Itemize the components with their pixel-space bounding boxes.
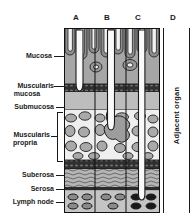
adjacent-organ-region: Adjacent organ (162, 40, 192, 190)
column-label-c: C (135, 13, 141, 22)
label-subserosa: Suberosa (2, 171, 54, 179)
leader-muscularis-propria (51, 136, 58, 137)
leader-mucosa (54, 56, 65, 57)
leader-lymph-node (56, 202, 65, 203)
label-serosa: Serosa (2, 185, 54, 193)
label-muscularis-mucosa-line2: mucosa (0, 90, 54, 98)
bracket-muscularis-propria (57, 112, 63, 162)
column-label-a: A (73, 13, 79, 22)
column-label-d: D (170, 13, 176, 22)
label-lymph-node: Lymph node (0, 198, 54, 206)
label-submucosa: Submucosa (2, 103, 54, 111)
bowel-wall-cross-section (64, 28, 160, 213)
leader-muscularis-mucosa (54, 86, 65, 87)
label-muscularis-propria-line2: propria (0, 139, 50, 147)
label-muscularis-propria-line1: Muscularis (0, 131, 50, 139)
leader-submucosa (56, 107, 65, 108)
leader-serosa (56, 189, 65, 190)
leader-subserosa (56, 175, 65, 176)
label-mucosa: Mucosa (2, 52, 52, 60)
figure-canvas: A B C D (0, 0, 195, 221)
adjacent-organ-label: Adjacent organ (173, 86, 182, 143)
column-label-b: B (104, 13, 110, 22)
label-muscularis-mucosa-line1: Muscularis (0, 82, 54, 90)
